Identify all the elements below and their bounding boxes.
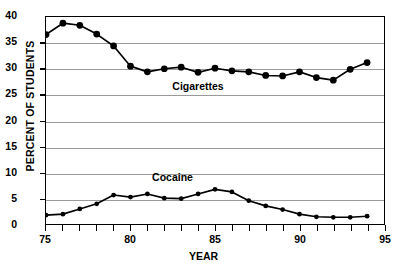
data-point [196, 192, 201, 197]
data-point [144, 68, 151, 75]
data-point [111, 193, 116, 198]
data-point [296, 68, 303, 75]
data-point [230, 190, 235, 195]
series-label-cigarettes: Cigarettes [172, 80, 223, 92]
series-cigarettes [46, 20, 370, 84]
x-tick-mark [164, 225, 165, 231]
x-tick-label: 80 [124, 233, 136, 245]
data-point [212, 65, 219, 72]
data-point [245, 68, 252, 75]
data-point [61, 212, 66, 217]
x-tick-label: 95 [379, 233, 391, 245]
series-line [46, 189, 367, 217]
y-tick-label: 25 [5, 87, 17, 99]
x-tick-label: 90 [294, 233, 306, 245]
data-point [161, 65, 168, 72]
x-tick-label: 75 [39, 233, 51, 245]
data-point [364, 59, 371, 66]
x-tick-mark [198, 225, 199, 231]
y-tick-label: 10 [5, 166, 17, 178]
data-point [46, 213, 48, 218]
data-point [330, 77, 337, 84]
data-point [279, 73, 286, 80]
x-tick-mark [351, 225, 352, 231]
data-point [127, 63, 134, 70]
data-point [297, 212, 302, 217]
y-tick-label: 0 [11, 218, 17, 230]
x-tick-mark [385, 225, 386, 231]
data-point [178, 64, 185, 71]
x-tick-mark [317, 225, 318, 231]
data-point [313, 74, 320, 81]
data-point [365, 214, 370, 219]
data-point [262, 72, 269, 79]
x-tick-mark [147, 225, 148, 231]
data-point [94, 201, 99, 206]
x-tick-mark [96, 225, 97, 231]
series-lines [46, 17, 384, 224]
y-tick-label: 15 [5, 140, 17, 152]
x-tick-mark [181, 225, 182, 231]
x-tick-mark [113, 225, 114, 231]
data-point [213, 187, 218, 192]
x-tick-mark [232, 225, 233, 231]
data-point [263, 204, 268, 209]
data-point [314, 214, 319, 219]
chart-container: PERCENT OF STUDENTS 0510152025303540 758… [0, 0, 407, 266]
x-tick-mark [62, 225, 63, 231]
x-tick-mark [368, 225, 369, 231]
y-tick-label: 30 [5, 61, 17, 73]
data-point [229, 67, 236, 74]
y-tick-label: 35 [5, 35, 17, 47]
series-line [46, 23, 367, 80]
data-point [60, 20, 67, 27]
x-tick-mark [334, 225, 335, 231]
x-tick-mark [266, 225, 267, 231]
data-point [280, 207, 285, 212]
data-point [93, 31, 100, 38]
x-tick-mark [130, 225, 131, 231]
data-point [145, 192, 150, 197]
x-tick-mark [283, 225, 284, 231]
series-label-cocaine: Cocaine [152, 171, 193, 183]
data-point [179, 196, 184, 201]
x-tick-mark [249, 225, 250, 231]
x-tick-mark [79, 225, 80, 231]
data-point [246, 198, 251, 203]
y-axis-title: PERCENT OF STUDENTS [24, 21, 36, 191]
y-tick-label: 20 [5, 114, 17, 126]
x-tick-mark [215, 225, 216, 231]
y-tick-label: 5 [11, 192, 17, 204]
x-tick-mark [300, 225, 301, 231]
data-point [77, 207, 82, 212]
series-cocaine [46, 187, 369, 220]
x-tick-mark [45, 225, 46, 231]
data-point [348, 215, 353, 220]
data-point [331, 215, 336, 220]
data-point [76, 22, 83, 29]
data-point [128, 195, 133, 200]
x-tick-label: 85 [209, 233, 221, 245]
y-tick-label: 40 [5, 9, 17, 21]
data-point [347, 66, 354, 73]
data-point [110, 43, 117, 50]
x-axis-title: YEAR [0, 250, 407, 262]
plot-area [45, 16, 385, 225]
data-point [195, 69, 202, 76]
data-point [162, 196, 167, 201]
